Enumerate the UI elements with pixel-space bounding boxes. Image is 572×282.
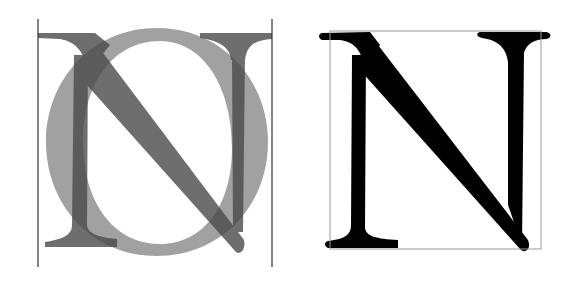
letter-n-black <box>319 32 551 251</box>
left-panel-n-o-overlay <box>38 19 272 267</box>
right-panel-n-box <box>319 31 551 251</box>
letter-n-gray <box>38 33 272 253</box>
typography-diagram <box>0 0 572 282</box>
